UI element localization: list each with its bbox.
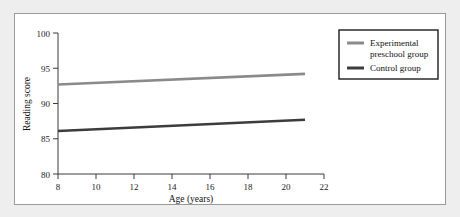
y-tick-label-90: 90 [41,99,51,109]
x-tick-label-22: 22 [320,182,329,192]
legend-label-control: Control group [370,63,421,73]
legend-label-experimental-line2: preschool group [370,49,429,59]
reading-score-line-chart: 100 95 90 85 80 8 10 12 14 16 18 20 22 A… [15,14,445,204]
y-tick-label-95: 95 [41,64,51,74]
y-tick-label-80: 80 [41,170,51,180]
y-tick-label-85: 85 [41,134,51,144]
x-tick-label-12: 12 [130,182,139,192]
figure-frame: 100 95 90 85 80 8 10 12 14 16 18 20 22 A… [14,13,446,205]
x-tick-label-20: 20 [282,182,292,192]
series-line-control-group [58,120,305,131]
y-axis-title: Reading score [22,77,32,131]
x-tick-label-8: 8 [56,182,61,192]
y-tick-label-100: 100 [37,29,51,39]
x-tick-label-10: 10 [92,182,102,192]
x-tick-label-18: 18 [244,182,254,192]
legend: Experimental preschool group Control gro… [339,30,438,79]
x-tick-label-16: 16 [206,182,216,192]
series-line-experimental-preschool-group [58,74,305,85]
legend-label-experimental-line1: Experimental [370,38,419,48]
x-tick-label-14: 14 [168,182,178,192]
x-axis-title: Age (years) [169,194,214,204]
